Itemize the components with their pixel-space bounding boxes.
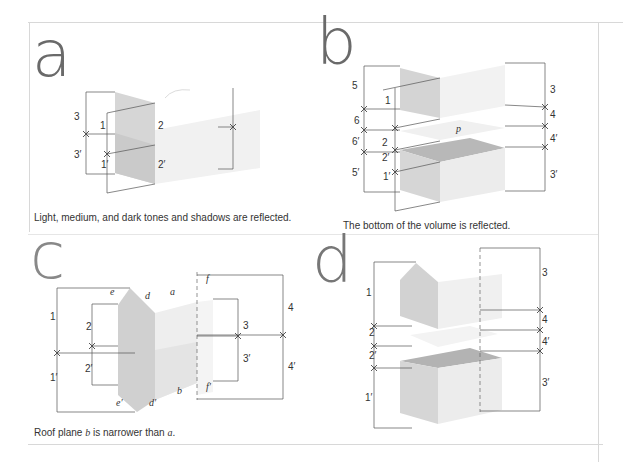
svg-text:2′: 2′ [369, 350, 377, 361]
svg-text:2: 2 [369, 327, 375, 338]
svg-text:3′: 3′ [542, 377, 550, 388]
svg-text:4′: 4′ [542, 336, 550, 347]
svg-text:4: 4 [542, 314, 548, 325]
svg-text:1′: 1′ [365, 392, 373, 403]
svg-text:1: 1 [366, 287, 372, 298]
panel-d-diagram: 1 3 4 2 4′ 2′ 1′ 3′ [0, 0, 630, 472]
svg-text:3: 3 [542, 267, 548, 278]
